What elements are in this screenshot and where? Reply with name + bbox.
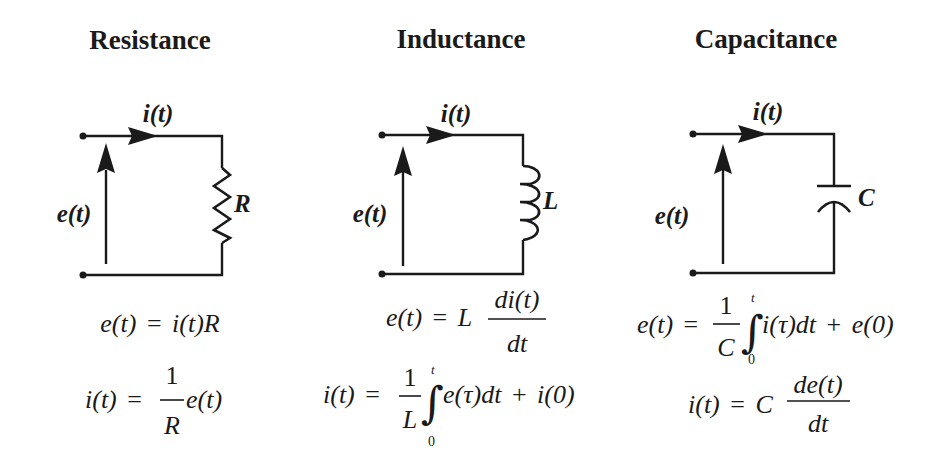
- panel-title: Inductance: [396, 24, 525, 54]
- integral-sign: ∫: [741, 306, 764, 357]
- eq-sign: =: [730, 390, 745, 419]
- voltage-arrow-icon: [97, 143, 115, 173]
- eq-const: i(0): [537, 380, 575, 409]
- panel-title: Capacitance: [695, 24, 837, 54]
- frac-numerator: 1: [404, 363, 417, 392]
- equation-1: e(t) = i(t)R: [100, 309, 220, 338]
- eq-coef: L: [457, 303, 472, 332]
- eq-rhs: i(t)R: [172, 309, 220, 338]
- circuit-resistance: i(t) e(t) R: [57, 100, 251, 279]
- current-arrow-icon: [128, 127, 158, 145]
- eq-lhs: i(t): [688, 390, 720, 419]
- voltage-label: e(t): [655, 202, 690, 230]
- equation-2: i(t) = 1 R e(t): [85, 361, 222, 440]
- voltage-arrow-icon: [394, 146, 412, 176]
- panel-resistance: Resistance i(t) e(t) R e(t) = i(t)R i(t): [57, 25, 251, 440]
- eq-lhs: e(t): [100, 309, 136, 338]
- voltage-arrow-icon: [714, 144, 732, 174]
- eq-coef: C: [755, 390, 773, 419]
- current-label: i(t): [143, 100, 174, 128]
- eq-rhs: e(t): [186, 385, 222, 414]
- svg-text:e(t) = i(t)R: e(t) = i(t)R: [100, 309, 220, 338]
- svg-text:e(τ)dt + i(0): e(τ)dt + i(0): [443, 380, 575, 409]
- resistor-icon: [214, 168, 230, 243]
- eq-sign: =: [127, 385, 142, 414]
- equation-2: i(t) = C de(t) dt: [688, 370, 850, 438]
- current-arrow-icon: [426, 126, 456, 144]
- integral-sign: ∫: [421, 377, 444, 428]
- eq-plus: +: [827, 310, 842, 339]
- voltage-label: e(t): [353, 200, 388, 228]
- eq-sign: =: [365, 380, 380, 409]
- frac-denominator: C: [717, 333, 735, 362]
- frac-numerator: 1: [720, 291, 733, 320]
- panel-capacitance: Capacitance e(t) i(t) C e(t) = 1 C: [637, 24, 894, 438]
- eq-integrand: i(τ)dt: [762, 310, 817, 339]
- frac-numerator: de(t): [793, 370, 842, 399]
- top-wire: [693, 134, 834, 186]
- integral-upper-limit: t: [431, 362, 435, 377]
- current-label: i(t): [441, 100, 472, 128]
- current-label: i(t): [753, 98, 784, 126]
- equation-1: e(t) = 1 C ∫ t 0 i(τ)dt + e(0): [637, 290, 894, 367]
- circuit-inductance: i(t) e(t) L: [353, 100, 559, 278]
- eq-sign: =: [684, 310, 699, 339]
- svg-text:i(t) =: i(t) =: [323, 380, 380, 409]
- panel-title: Resistance: [89, 25, 210, 55]
- component-label: L: [542, 187, 558, 214]
- eq-lhs: i(t): [85, 385, 117, 414]
- eq-lhs: e(t): [386, 303, 422, 332]
- circuit-capacitance: e(t) i(t) C: [655, 98, 875, 277]
- equation-2: i(t) = 1 L ∫ t 0 e(τ)dt + i(0): [323, 362, 575, 449]
- circuit-diagram: Resistance i(t) e(t) R e(t) = i(t)R i(t): [0, 0, 941, 468]
- current-arrow-icon: [738, 125, 768, 143]
- panel-inductance: Inductance i(t) e(t) L e(t) = L di(t) dt: [323, 24, 575, 449]
- frac-denominator: L: [402, 405, 417, 434]
- integral-lower-limit: 0: [428, 434, 435, 449]
- eq-plus: +: [512, 380, 527, 409]
- eq-sign: =: [433, 303, 448, 332]
- eq-sign: =: [147, 309, 162, 338]
- svg-text:e(t) = L: e(t) = L: [386, 303, 472, 332]
- svg-text:e(t) =: e(t) =: [637, 310, 698, 339]
- eq-const: e(0): [852, 310, 894, 339]
- svg-text:i(τ)dt + e(0): i(τ)dt + e(0): [762, 310, 894, 339]
- frac-denominator: R: [163, 411, 180, 440]
- frac-denominator: dt: [808, 409, 829, 438]
- svg-text:i(t) =: i(t) =: [85, 385, 142, 414]
- integral-lower-limit: 0: [748, 352, 755, 367]
- bottom-wire: [83, 243, 222, 275]
- eq-integrand: e(τ)dt: [443, 380, 502, 409]
- component-label: C: [858, 184, 875, 211]
- equation-1: e(t) = L di(t) dt: [386, 285, 546, 358]
- eq-lhs: i(t): [323, 380, 355, 409]
- eq-lhs: e(t): [637, 310, 673, 339]
- svg-text:i(t) = C: i(t) = C: [688, 390, 773, 419]
- frac-denominator: dt: [507, 329, 528, 358]
- frac-numerator: 1: [166, 361, 179, 390]
- integral-upper-limit: t: [751, 290, 755, 305]
- voltage-label: e(t): [57, 200, 92, 228]
- bottom-wire: [693, 201, 834, 273]
- inductor-icon: [520, 166, 539, 240]
- component-label: R: [233, 190, 251, 217]
- frac-numerator: di(t): [495, 285, 540, 314]
